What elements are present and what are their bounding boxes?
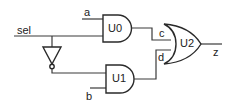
signal-label-b: b (86, 91, 92, 102)
wire-c (132, 28, 172, 40)
gate-label-u0: U0 (108, 23, 122, 34)
signal-label-sel: sel (17, 25, 31, 36)
signal-label-c: c (159, 28, 165, 39)
signal-label-a: a (84, 7, 90, 18)
wire-sel-n (52, 69, 106, 73)
circuit-canvas (0, 0, 232, 105)
inverter-gate (43, 47, 61, 64)
gate-label-u2: U2 (180, 38, 194, 49)
inverter-bubble (50, 64, 54, 68)
signal-label-d: d (158, 52, 164, 63)
gate-label-u1: U1 (112, 73, 126, 84)
signal-label-z: z (213, 47, 219, 58)
